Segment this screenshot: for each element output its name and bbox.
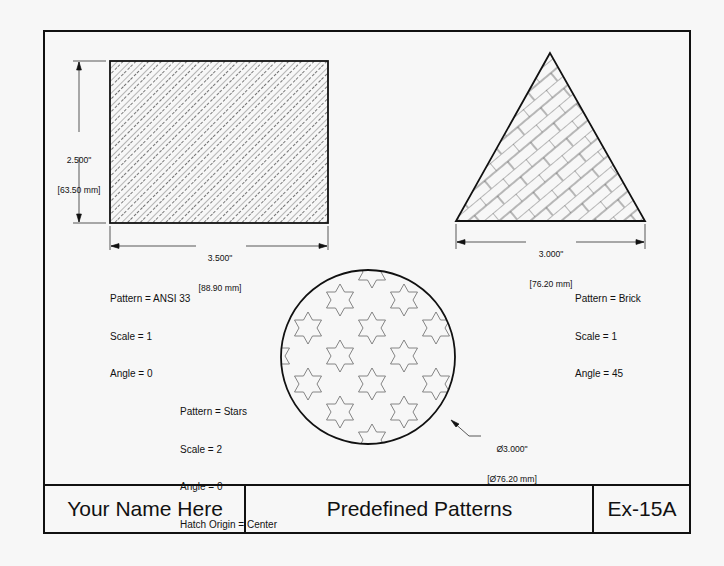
- title-block-title: Predefined Patterns: [246, 485, 593, 533]
- triangle-pattern-notes: Pattern = Brick Scale = 1 Angle = 45: [575, 268, 641, 393]
- triangle-angle-label: Angle = 45: [575, 368, 641, 381]
- rectangle-scale-label: Scale = 1: [110, 331, 190, 344]
- rectangle-pattern-label: Pattern = ANSI 33: [110, 293, 190, 306]
- rectangle-angle-label: Angle = 0: [110, 368, 190, 381]
- circle-diameter-mm: [Ø76.20 mm]: [481, 474, 543, 484]
- title-block-name: Your Name Here: [45, 485, 245, 533]
- rectangle-ansi33: [110, 61, 328, 223]
- triangle-brick: [456, 53, 645, 221]
- rectangle-pattern-notes: Pattern = ANSI 33 Scale = 1 Angle = 0: [110, 268, 190, 393]
- title-block-number: Ex-15A: [594, 485, 690, 533]
- rectangle-height-inches: 2.500": [53, 155, 105, 165]
- rectangle-width-dim-text: 3.500" [88.90 mm]: [190, 233, 250, 303]
- circle-stars: [280, 269, 456, 445]
- triangle-base-dim-text: 3.000" [76.20 mm]: [521, 229, 581, 299]
- triangle-scale-label: Scale = 1: [575, 331, 641, 344]
- triangle-base-mm: [76.20 mm]: [521, 279, 581, 289]
- circle-pattern-label: Pattern = Stars: [180, 406, 277, 419]
- rectangle-width-mm: [88.90 mm]: [190, 283, 250, 293]
- rectangle-width-inches: 3.500": [190, 253, 250, 263]
- rectangle-height-mm: [63.50 mm]: [53, 185, 105, 195]
- triangle-pattern-label: Pattern = Brick: [575, 293, 641, 306]
- circle-diameter-inches: Ø3.000": [481, 444, 543, 454]
- circle-diameter-dim-text: Ø3.000" [Ø76.20 mm]: [481, 424, 543, 494]
- triangle-base-inches: 3.000": [521, 249, 581, 259]
- circle-diameter-leader: [451, 420, 481, 436]
- rectangle-height-dim-text: 2.500" [63.50 mm]: [53, 135, 105, 205]
- circle-scale-label: Scale = 2: [180, 444, 277, 457]
